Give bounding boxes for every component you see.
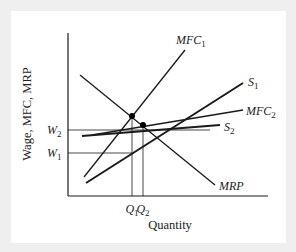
y-axis-label: Wage, MFC, MRP xyxy=(20,67,34,160)
curve-label-s1: S1 xyxy=(248,75,259,91)
curve-mfc1 xyxy=(84,50,185,177)
points xyxy=(129,113,146,128)
curve-label-s2: S2 xyxy=(224,120,235,136)
labels: W2W1Q1Q2MFC1MRPS1MFC2S2 xyxy=(47,33,276,218)
y-tick-w2: W2 xyxy=(47,123,62,139)
x-axis-label: Quantity xyxy=(148,218,192,232)
y-tick-w1: W1 xyxy=(47,146,62,162)
equilibrium-1-dot xyxy=(129,113,135,119)
x-tick-q2: Q2 xyxy=(136,202,149,218)
equilibrium-2-dot xyxy=(140,122,146,128)
monopsony-diagram: Wage, MFC, MRP Quantity W2W1Q1Q2MFC1MRPS… xyxy=(0,0,296,252)
curve-label-mfc1: MFC1 xyxy=(175,33,206,49)
curve-label-mfc2: MFC2 xyxy=(245,104,276,120)
curve-label-mrp: MRP xyxy=(218,179,244,193)
curves xyxy=(80,50,243,185)
curve-s2 xyxy=(82,125,220,136)
